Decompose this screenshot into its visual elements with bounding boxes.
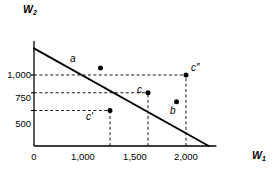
- point-label-c-double-prime: c″: [191, 63, 200, 73]
- x-tick-label-0: 0: [24, 152, 44, 162]
- y-tick-label-1000: 1,000: [0, 70, 31, 80]
- y-tick-label-500: 500: [0, 119, 31, 129]
- y-tick-label-750: 750: [0, 93, 31, 103]
- data-point-b: [174, 99, 179, 104]
- point-label-c-prime: c′: [86, 112, 93, 122]
- point-label-b: b: [170, 106, 176, 116]
- x-axis-title: W1: [252, 150, 266, 161]
- x-tick-label-1000: 1,000: [63, 152, 103, 162]
- point-label-c: c: [137, 85, 142, 95]
- data-point-cpp: [184, 73, 189, 78]
- x-axis-title-text: W: [252, 149, 262, 161]
- y-axis-title: W2: [23, 4, 37, 15]
- data-point-a: [98, 65, 103, 70]
- point-label-a: a: [70, 54, 76, 64]
- chart-figure: W2 W1 1,000 750 500 0 1,000 1,500 2,000 …: [0, 0, 277, 169]
- data-point-cp: [108, 108, 113, 113]
- series-budget-line: [34, 48, 209, 146]
- y-axis-title-subscript: 2: [33, 9, 37, 16]
- x-tick-label-1500: 1,500: [115, 152, 155, 162]
- y-axis-title-text: W: [23, 3, 33, 15]
- x-axis-title-subscript: 1: [262, 155, 266, 162]
- x-tick-label-2000: 2,000: [166, 152, 206, 162]
- data-point-c: [146, 90, 151, 95]
